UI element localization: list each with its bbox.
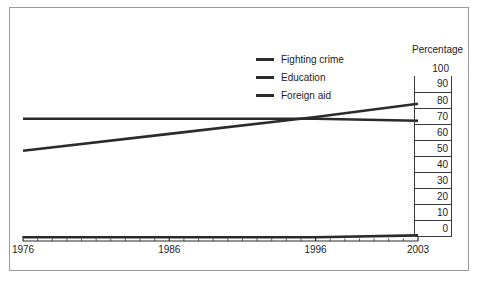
x-axis-label-1976: 1976 [12,244,34,255]
y-axis-tick-label-40: 40 [415,156,451,172]
y-axis-tick-label-0: 0 [415,220,451,236]
chart-legend: Fighting crime Education Foreign aid [256,52,386,106]
series-line-foreign-aid [23,235,418,237]
y-axis-tick-label-90: 90 [415,76,451,92]
legend-label: Fighting crime [281,54,344,65]
y-axis-title: Percentage [412,44,463,55]
y-axis-tick-label-60: 60 [415,124,451,140]
x-axis-label-2003: 2003 [407,244,429,255]
legend-swatch-icon [256,76,274,79]
y-axis-tick-label-10: 10 [415,204,451,220]
y-axis-tick-label-80: 80 [415,92,451,108]
legend-label: Foreign aid [281,90,331,101]
legend-item-foreign-aid: Foreign aid [256,88,386,103]
legend-item-education: Education [256,70,386,85]
legend-item-fighting-crime: Fighting crime [256,52,386,67]
y-axis-tick-label-50: 50 [415,140,451,156]
y-axis-tick-label-100: 100 [414,62,452,76]
series-line-fighting-crime [23,119,418,121]
y-axis-tick-label-20: 20 [415,188,451,204]
y-axis-tick-label-30: 30 [415,172,451,188]
x-axis-labels: 1976198619962003 [10,244,470,258]
legend-swatch-icon [256,94,274,97]
y-axis-scale: 100 9080706050403020100 [414,62,452,237]
series-line-education [23,104,418,151]
legend-swatch-icon [256,58,274,61]
x-axis-label-1986: 1986 [158,244,180,255]
legend-label: Education [281,72,325,83]
chart-figure: Fighting crime Education Foreign aid Per… [9,7,469,271]
y-axis-tick-label-70: 70 [415,108,451,124]
y-axis-scale-box: 9080706050403020100 [414,76,452,237]
x-axis-label-1996: 1996 [304,244,326,255]
